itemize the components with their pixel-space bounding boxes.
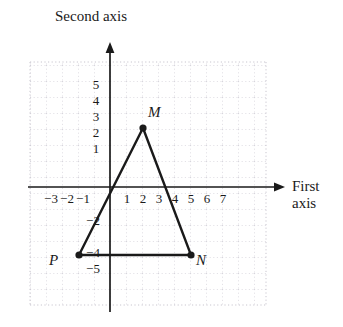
horizontal-axis-title: Firstaxis bbox=[292, 178, 320, 213]
x-tick-label: 7 bbox=[212, 191, 234, 207]
y-tick-label: −5 bbox=[82, 261, 104, 277]
y-tick-label: 5 bbox=[85, 77, 107, 93]
y-tick-label: −4 bbox=[82, 245, 104, 261]
coordinate-plane-figure: Second axis Firstaxis −3 −2 −1 1 2 3 4 5… bbox=[0, 0, 343, 327]
vertical-axis-title: Second axis bbox=[55, 8, 127, 25]
point-label-p: P bbox=[49, 252, 58, 269]
y-tick-label: −2 bbox=[82, 213, 104, 229]
point-marker-n bbox=[187, 251, 194, 258]
x-tick-label: −1 bbox=[72, 191, 94, 207]
horizontal-axis-title-line1: First bbox=[292, 178, 320, 194]
point-marker-m bbox=[139, 124, 146, 131]
y-tick-label: 3 bbox=[85, 109, 107, 125]
point-label-n: N bbox=[196, 252, 206, 269]
plot-canvas bbox=[0, 0, 343, 327]
y-tick-label: 1 bbox=[85, 141, 107, 157]
y-tick-label: 4 bbox=[85, 93, 107, 109]
y-tick-label: 2 bbox=[85, 125, 107, 141]
horizontal-axis-title-line2: axis bbox=[292, 195, 316, 211]
point-label-m: M bbox=[148, 104, 161, 121]
grid-lines bbox=[30, 62, 266, 305]
